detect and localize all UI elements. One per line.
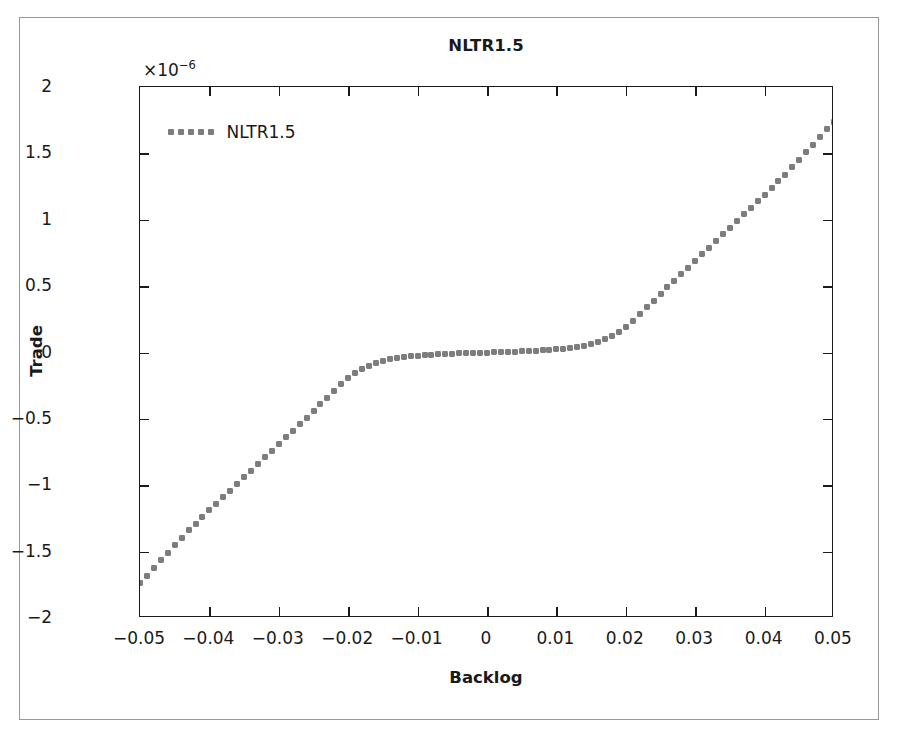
data-point xyxy=(831,119,832,125)
x-tick-mark xyxy=(279,87,281,96)
x-tick-mark xyxy=(695,87,697,96)
data-point xyxy=(664,284,670,290)
data-point xyxy=(283,434,289,440)
x-tick-mark xyxy=(556,87,558,96)
legend-label-nltr15: NLTR1.5 xyxy=(227,122,296,142)
y-tick-mark xyxy=(823,286,832,288)
y-tick-label: −2 xyxy=(27,607,52,627)
y-tick-label: 0 xyxy=(41,342,52,362)
data-point xyxy=(220,494,226,500)
exponent-power: −6 xyxy=(179,58,196,72)
data-point xyxy=(290,428,296,434)
legend: NLTR1.5 xyxy=(168,122,296,142)
data-point xyxy=(644,304,650,310)
data-point xyxy=(706,245,712,251)
y-tick-label: −0.5 xyxy=(11,408,52,428)
data-point xyxy=(519,348,525,354)
data-point xyxy=(422,352,428,358)
data-point xyxy=(442,351,448,357)
legend-marker-nltr15 xyxy=(168,127,214,137)
data-point xyxy=(317,401,323,407)
y-tick-mark xyxy=(140,552,149,554)
data-point xyxy=(213,501,219,507)
data-point xyxy=(671,278,677,284)
data-point xyxy=(796,157,802,163)
legend-marker-dot xyxy=(198,129,204,135)
y-tick-mark xyxy=(823,419,832,421)
data-point xyxy=(588,341,594,347)
data-point xyxy=(227,488,233,494)
data-point xyxy=(297,421,303,427)
y-tick-label: 1 xyxy=(41,209,52,229)
data-point xyxy=(477,350,483,356)
data-point xyxy=(186,527,192,533)
y-tick-label: −1 xyxy=(27,474,52,494)
data-point xyxy=(491,349,497,355)
data-point xyxy=(727,225,733,231)
data-point xyxy=(269,448,275,454)
data-point xyxy=(637,311,643,317)
data-point xyxy=(352,370,358,376)
data-point xyxy=(172,542,178,548)
x-tick-mark xyxy=(626,87,628,96)
x-axis-title: Backlog xyxy=(139,668,833,687)
x-tick-mark xyxy=(765,607,767,616)
data-point xyxy=(533,348,539,354)
data-point xyxy=(484,350,490,356)
data-point xyxy=(817,134,823,140)
data-point xyxy=(158,557,164,563)
exponent-mantissa: ×10 xyxy=(143,60,179,80)
x-tick-mark xyxy=(418,607,420,616)
data-point xyxy=(692,258,698,264)
data-point xyxy=(762,192,768,198)
data-point xyxy=(546,347,552,353)
data-point xyxy=(581,343,587,349)
data-point xyxy=(338,381,344,387)
legend-marker-dot xyxy=(188,129,194,135)
data-point xyxy=(165,550,171,556)
data-point xyxy=(394,355,400,361)
y-tick-label: 1.5 xyxy=(25,142,52,162)
data-point xyxy=(498,349,504,355)
data-point xyxy=(456,350,462,356)
data-point xyxy=(775,178,781,184)
y-axis-exponent-label: ×10−6 xyxy=(143,58,196,80)
data-point xyxy=(658,291,664,297)
y-tick-mark xyxy=(140,353,149,355)
data-point xyxy=(470,350,476,356)
data-point xyxy=(276,441,282,447)
data-point xyxy=(602,336,608,342)
y-tick-mark xyxy=(823,552,832,554)
x-tick-mark xyxy=(348,87,350,96)
data-point xyxy=(769,185,775,191)
data-point xyxy=(512,349,518,355)
data-point xyxy=(449,351,455,357)
data-point xyxy=(623,324,629,330)
y-tick-mark xyxy=(823,353,832,355)
data-point xyxy=(616,329,622,335)
x-tick-label: 0.01 xyxy=(536,628,574,648)
data-point xyxy=(553,346,559,352)
data-point xyxy=(435,351,441,357)
x-tick-label: 0.04 xyxy=(745,628,783,648)
y-tick-mark xyxy=(823,485,832,487)
data-point xyxy=(304,415,310,421)
data-point xyxy=(803,149,809,155)
data-point xyxy=(782,172,788,178)
data-point xyxy=(810,142,816,148)
data-point xyxy=(324,395,330,401)
data-point xyxy=(401,354,407,360)
x-tick-label: −0.02 xyxy=(321,628,373,648)
x-tick-mark xyxy=(209,607,211,616)
data-point xyxy=(540,347,546,353)
data-point xyxy=(824,126,830,132)
data-point xyxy=(574,344,580,350)
data-point xyxy=(380,358,386,364)
data-point xyxy=(609,333,615,339)
x-tick-label: 0 xyxy=(481,628,492,648)
x-tick-label: 0.03 xyxy=(675,628,713,648)
data-point xyxy=(720,231,726,237)
data-point xyxy=(713,238,719,244)
y-tick-mark xyxy=(140,286,149,288)
data-point xyxy=(262,454,268,460)
